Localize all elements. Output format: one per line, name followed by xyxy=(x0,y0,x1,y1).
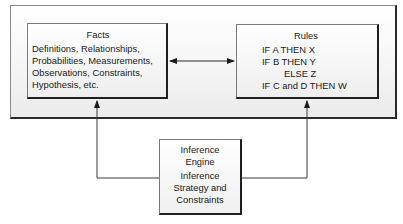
engine-to-facts-arrow xyxy=(97,101,159,178)
engine-to-rules-arrow xyxy=(242,101,307,178)
connectors xyxy=(0,0,403,224)
